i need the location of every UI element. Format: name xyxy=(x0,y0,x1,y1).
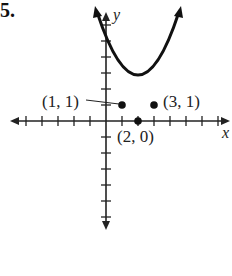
label-point-3-1: (3, 1) xyxy=(163,92,200,111)
y-axis-label: y xyxy=(111,6,121,24)
x-axis-label: x xyxy=(221,124,229,141)
leader-line xyxy=(86,100,119,104)
x-axis xyxy=(10,116,230,126)
label-point-1-1: (1, 1) xyxy=(42,92,79,111)
point-2-0 xyxy=(134,117,142,125)
arrow-left-icon xyxy=(93,6,102,18)
point-3-1 xyxy=(150,101,158,109)
label-point-2-0: (2, 0) xyxy=(117,127,154,146)
graph: y x (1, 1) (2, 0) (3, 1) xyxy=(0,0,232,276)
arrow-right-icon xyxy=(174,6,183,18)
point-1-1 xyxy=(118,101,126,109)
